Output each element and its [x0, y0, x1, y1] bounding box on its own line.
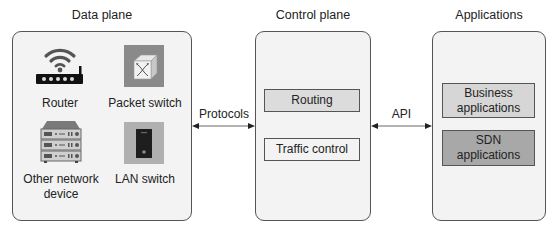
control-plane-panel — [255, 31, 371, 221]
routing-block: Routing — [264, 89, 360, 112]
data-plane-title: Data plane — [12, 8, 192, 22]
api-arrow — [371, 121, 432, 131]
traffic-control-label: Traffic control — [276, 142, 348, 157]
protocols-arrow — [192, 121, 255, 131]
business-applications-block: Business applications — [442, 83, 535, 118]
applications-panel — [432, 31, 546, 221]
other-network-device-label-line2: device — [14, 187, 108, 202]
other-network-device-label-line1: Other network — [14, 172, 108, 187]
protocols-label: Protocols — [194, 107, 254, 122]
api-label: API — [371, 107, 432, 122]
applications-title: Applications — [432, 8, 546, 22]
sdn-applications-label-line1: SDN — [476, 133, 501, 148]
business-applications-label-line2: applications — [457, 101, 520, 116]
router-label: Router — [20, 96, 100, 111]
packet-switch-icon — [124, 45, 164, 87]
routing-label: Routing — [291, 93, 332, 108]
business-applications-label-line1: Business — [464, 86, 513, 101]
sdn-applications-block: SDN applications — [442, 130, 535, 166]
wifi-router-icon — [34, 42, 86, 84]
lan-switch-label: LAN switch — [104, 172, 186, 187]
server-rack-icon — [38, 119, 84, 165]
sdn-applications-label-line2: applications — [457, 148, 520, 163]
other-network-device-label: Other network device — [14, 172, 108, 202]
lan-switch-icon — [124, 122, 164, 164]
control-plane-title: Control plane — [255, 8, 371, 22]
traffic-control-block: Traffic control — [264, 138, 360, 161]
packet-switch-label: Packet switch — [104, 96, 186, 111]
